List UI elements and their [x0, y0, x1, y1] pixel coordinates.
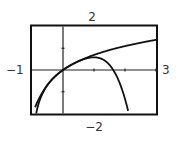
plot-area — [0, 0, 181, 141]
curve-2 — [35, 57, 128, 111]
curves — [35, 40, 156, 115]
axes — [32, 27, 156, 114]
